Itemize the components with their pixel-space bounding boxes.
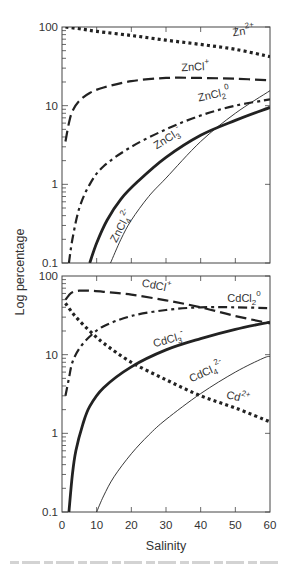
series-label: ZnCl20 (196, 82, 232, 106)
y-tick-label: 0.1 (42, 506, 58, 518)
series-label: CdCl42- (186, 356, 227, 387)
series-label: CdCl20 (227, 289, 261, 307)
x-tick-label: 30 (160, 519, 173, 531)
figure-caption-clipped (10, 558, 280, 565)
zinc-speciation-panel: 0.1110100Zn2+ZnCl+ZnCl20ZnCl3-ZnCl42- (39, 20, 270, 269)
series-label: Cd2+ (225, 385, 251, 405)
x-tick-label: 20 (125, 519, 138, 531)
y-tick-label: 1 (52, 427, 58, 439)
series-line-cdcl2-0 (65, 307, 270, 396)
x-axis-label: Salinity (146, 539, 187, 553)
series-line-cd2- (65, 303, 270, 422)
series-line-cdcl4-2- (97, 356, 270, 512)
y-tick-label: 10 (45, 349, 58, 361)
x-tick-label: 10 (90, 519, 103, 531)
x-tick-label: 40 (194, 519, 207, 531)
y-tick-label: 100 (39, 21, 58, 33)
series-label: Zn2+ (231, 20, 255, 38)
y-tick-label: 10 (45, 100, 58, 112)
x-tick-label: 0 (59, 519, 65, 531)
cadmium-speciation-panel: 0.11101000102030405060CdCl+CdCl20CdCl3-C… (39, 270, 277, 531)
series-label: CdCl+ (141, 273, 173, 294)
x-tick-label: 50 (229, 519, 242, 531)
speciation-chart: 0.1110100Zn2+ZnCl+ZnCl20ZnCl3-ZnCl42- 0.… (0, 0, 293, 565)
x-tick-label: 60 (264, 519, 277, 531)
y-tick-label: 0.1 (42, 257, 58, 269)
series-label: ZnCl+ (181, 57, 210, 73)
y-tick-label: 100 (39, 270, 58, 282)
y-axis-label: Log percentage (13, 229, 27, 316)
y-tick-label: 1 (52, 178, 58, 190)
